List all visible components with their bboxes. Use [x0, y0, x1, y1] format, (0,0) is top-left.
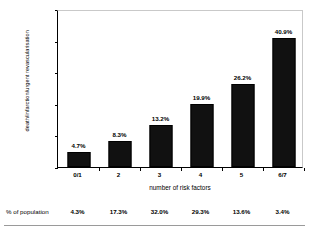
y-tick-mark [55, 136, 58, 137]
bar-group: 8.3% [99, 10, 140, 167]
x-tick-label: 2 [99, 172, 139, 178]
footer-cell: 13.6% [222, 209, 262, 215]
x-tick-mark [140, 168, 141, 171]
bar-group: 40.9% [263, 10, 304, 167]
x-tick-label: 3 [140, 172, 180, 178]
x-tick-mark [263, 168, 264, 171]
x-tick-label: 5 [222, 172, 262, 178]
bar [108, 141, 131, 167]
bar-value-label: 8.3% [112, 132, 126, 138]
bar [272, 38, 295, 167]
y-tick-mark [55, 42, 58, 43]
bar-group: 26.2% [222, 10, 263, 167]
bar [231, 84, 254, 167]
x-tick-mark [99, 168, 100, 171]
bar-value-label: 40.9% [275, 29, 293, 35]
footer-cell: 29.3% [181, 209, 221, 215]
footer-cell: 4.3% [58, 209, 98, 215]
y-tick-mark [55, 73, 58, 74]
x-tick-mark [304, 168, 305, 171]
bar-group: 4.7% [58, 10, 99, 167]
y-tick-mark [55, 10, 58, 11]
footer-cell: 3.4% [263, 209, 303, 215]
figure: death/infarction/urgent revascularisatio… [0, 0, 309, 230]
bar-value-label: 19.9% [193, 95, 211, 101]
plot-inner: 4.7%8.3%13.2%19.9%26.2%40.9% [58, 10, 303, 167]
y-tick-mark [55, 105, 58, 106]
bar [149, 125, 172, 167]
bar [190, 104, 213, 167]
bar-group: 13.2% [140, 10, 181, 167]
footer-divider [4, 225, 305, 226]
x-axis-title: number of risk factors [57, 185, 303, 191]
x-tick-label: 4 [181, 172, 221, 178]
bar-value-label: 13.2% [152, 116, 170, 122]
bar [67, 152, 90, 167]
bar-value-label: 26.2% [234, 75, 252, 81]
y-axis-title: death/infarction/urgent revascularisatio… [25, 6, 31, 156]
x-tick-label: 6/7 [263, 172, 303, 178]
footer-table: % of population 4.3%17.3%32.0%29.3%13.6%… [0, 198, 309, 230]
bar-group: 19.9% [181, 10, 222, 167]
x-tick-mark [222, 168, 223, 171]
x-tick-label: 0/1 [58, 172, 98, 178]
footer-cell: 32.0% [140, 209, 180, 215]
y-tick-mark [55, 168, 58, 169]
footer-cell: 17.3% [99, 209, 139, 215]
footer-row-label: % of population [6, 209, 49, 215]
plot-area: 4.7%8.3%13.2%19.9%26.2%40.9% [57, 10, 303, 168]
bar-value-label: 4.7% [71, 143, 85, 149]
x-tick-mark [181, 168, 182, 171]
bar-chart: death/infarction/urgent revascularisatio… [0, 0, 309, 196]
